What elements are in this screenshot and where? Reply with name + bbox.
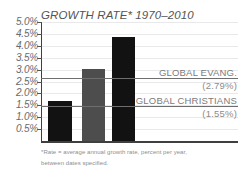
y-tick-label-4-5: 4.5% xyxy=(16,28,38,39)
reference-value-global-evang: (2.79%) xyxy=(202,80,237,91)
x-axis-line xyxy=(41,141,238,143)
y-tick-label-3-5: 3.5% xyxy=(16,52,38,63)
y-tick-label-5-0: 5.0% xyxy=(16,16,38,27)
y-tick-label-1-0: 1.0% xyxy=(16,111,38,122)
gridline-5-0 xyxy=(41,22,238,23)
y-tick-label-1-5: 1.5% xyxy=(16,99,38,110)
y-tick-label-0-5: 0.5% xyxy=(16,123,38,134)
footnote: *Rate = average annual growth rate, perc… xyxy=(41,147,231,168)
growth-rate-chart: GROWTH RATE* 1970–2010 5.0% 4.5% 4.0% 3.… xyxy=(0,0,240,177)
gridline-4-5 xyxy=(41,34,238,35)
footnote-line-2: between dates specified. xyxy=(41,158,231,169)
gridline-4-0 xyxy=(41,46,238,47)
reference-label-global-christians: GLOBAL CHRISTIANS xyxy=(136,95,237,106)
y-tick-label-2-5: 2.5% xyxy=(16,76,38,87)
chart-title: GROWTH RATE* 1970–2010 xyxy=(41,9,194,21)
y-tick-label-3-0: 3.0% xyxy=(16,64,38,75)
reference-label-global-evang: GLOBAL EVANG. xyxy=(159,67,237,78)
reference-value-global-christians: (1.55%) xyxy=(202,108,237,119)
gridline-3-5 xyxy=(41,58,238,59)
bar-2 xyxy=(82,69,105,142)
y-tick-label-2-0: 2.0% xyxy=(16,87,38,98)
y-tick-label-4-0: 4.0% xyxy=(16,40,38,51)
bar-3 xyxy=(112,37,135,141)
footnote-line-1: *Rate = average annual growth rate, perc… xyxy=(41,147,231,158)
